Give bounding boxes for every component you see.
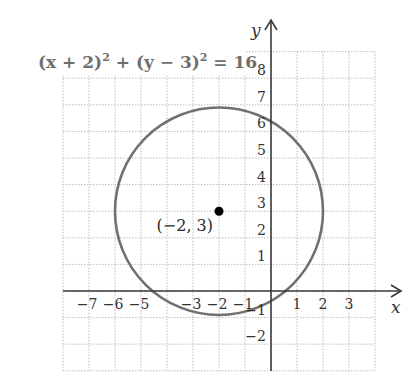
- y-tick-label: 7: [257, 89, 266, 105]
- y-axis-label: y: [250, 20, 261, 40]
- circle-graph-figure: x y −7−6−5−3−2−1123 87654321−1−2 (−2, 3)…: [0, 0, 413, 386]
- y-tick-label: 2: [257, 222, 266, 238]
- x-axis-label: x: [391, 297, 401, 317]
- y-tick-label: 3: [257, 195, 266, 211]
- y-tick-label: 4: [257, 169, 266, 185]
- x-tick-label: −2: [207, 296, 228, 312]
- y-tick-label: −2: [245, 328, 266, 344]
- x-tick-label: 1: [293, 296, 302, 312]
- center-point: [215, 207, 224, 216]
- x-tick-label: −7: [77, 296, 98, 312]
- y-tick-label: 1: [257, 248, 266, 264]
- y-tick-label: 6: [257, 115, 266, 131]
- center-point-label: (−2, 3): [157, 216, 213, 235]
- x-tick-label: 3: [345, 296, 354, 312]
- y-tick-label: −1: [245, 302, 266, 318]
- x-tick-label: −6: [103, 296, 124, 312]
- y-tick-label: 5: [257, 142, 266, 158]
- x-tick-label: −5: [129, 296, 150, 312]
- x-tick-label: −3: [181, 296, 202, 312]
- x-tick-label: 2: [319, 296, 328, 312]
- plot-area: x y −7−6−5−3−2−1123 87654321−1−2 (−2, 3)…: [0, 0, 413, 386]
- x-tick-labels: −7−6−5−3−2−1123: [77, 296, 354, 312]
- equation-label: (x + 2)2 + (y − 3)2 = 16: [38, 51, 257, 72]
- y-tick-label: 8: [257, 62, 266, 78]
